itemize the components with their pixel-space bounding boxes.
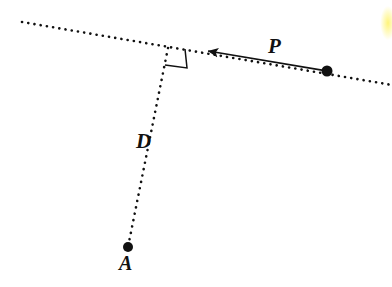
displacement-arrow bbox=[208, 51, 325, 71]
label-a: A bbox=[119, 253, 132, 273]
diagram-canvas bbox=[0, 0, 392, 287]
right-angle-marker bbox=[165, 49, 187, 68]
label-d: D bbox=[136, 131, 151, 152]
label-p: P bbox=[268, 36, 281, 57]
mirror-line bbox=[22, 22, 392, 85]
point-a-dot bbox=[123, 242, 133, 252]
point-p-dot bbox=[322, 66, 333, 77]
geometry-diagram: P D A bbox=[0, 0, 392, 287]
